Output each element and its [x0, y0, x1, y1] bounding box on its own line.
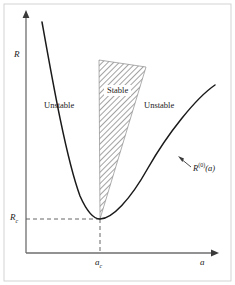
- y-tick-subscript: c: [16, 218, 19, 224]
- x-axis-label: a: [200, 258, 205, 267]
- region-label-unstable-right: Unstable: [144, 101, 174, 110]
- region-label-unstable-left: Unstable: [44, 101, 74, 110]
- x-tick-subscript: c: [100, 263, 103, 269]
- y-axis-arrow-icon: [23, 10, 30, 18]
- stability-diagram-figure: R Rc ac a Unstable Stable Unstable R(0)(…: [0, 0, 235, 285]
- x-axis-arrow-icon: [211, 250, 219, 257]
- stable-region-wedge: [99, 60, 146, 219]
- y-axis-tick-label-critical: Rc: [10, 213, 18, 224]
- x-axis-tick-label-critical: ac: [95, 258, 102, 269]
- curve-label: R(0)(a): [193, 162, 215, 172]
- y-axis-label: R: [14, 50, 20, 59]
- region-label-stable: Stable: [104, 85, 131, 96]
- curve-label-argument: (a): [205, 163, 215, 173]
- diagram-canvas: [0, 0, 235, 285]
